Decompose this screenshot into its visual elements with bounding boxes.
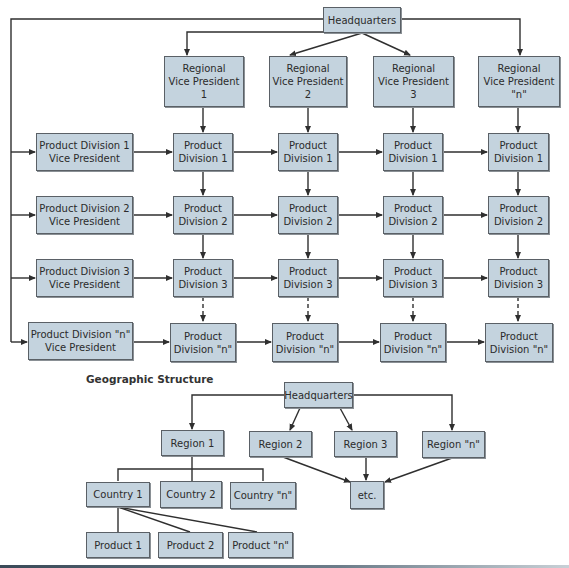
grid-r2-c2: Product Division 2 bbox=[278, 196, 338, 234]
grid-rn-c4: Product Division "n" bbox=[485, 323, 553, 362]
division-3-vp-box: Product Division 3 Vice President bbox=[36, 259, 133, 297]
grid-r1-c1: Product Division 1 bbox=[173, 133, 233, 171]
geographic-structure-title: Geographic Structure bbox=[86, 373, 213, 385]
grid-r3-c4: Product Division 3 bbox=[488, 259, 549, 297]
regional-vp-3-box: Regional Vice President 3 bbox=[373, 56, 454, 107]
grid-r2-c1: Product Division 2 bbox=[173, 196, 233, 234]
product-2-box: Product 2 bbox=[158, 532, 223, 558]
grid-r2-c3: Product Division 2 bbox=[383, 196, 443, 234]
grid-r1-c3: Product Division 1 bbox=[383, 133, 443, 171]
grid-rn-c1: Product Division "n" bbox=[170, 323, 236, 362]
grid-r1-c4: Product Division 1 bbox=[488, 133, 549, 171]
grid-r2-c4: Product Division 2 bbox=[488, 196, 549, 234]
grid-rn-c3: Product Division "n" bbox=[380, 323, 446, 362]
headquarters-box: Headquarters bbox=[323, 7, 401, 33]
country-2-box: Country 2 bbox=[160, 481, 222, 508]
division-2-vp-box: Product Division 2 Vice President bbox=[36, 196, 133, 234]
regional-vp-1-box: Regional Vice President 1 bbox=[164, 56, 244, 107]
country-1-box: Country 1 bbox=[86, 482, 150, 507]
regional-vp-2-box: Regional Vice President 2 bbox=[269, 56, 347, 107]
division-n-vp-box: Product Division "n" Vice President bbox=[28, 322, 133, 360]
region-n-box: Region "n" bbox=[422, 431, 485, 458]
region-3-box: Region 3 bbox=[334, 431, 397, 457]
grid-r1-c2: Product Division 1 bbox=[278, 133, 338, 171]
grid-r3-c1: Product Division 3 bbox=[173, 259, 233, 297]
region-2-box: Region 2 bbox=[249, 431, 312, 457]
product-1-box: Product 1 bbox=[86, 532, 150, 558]
grid-r3-c2: Product Division 3 bbox=[278, 259, 338, 297]
etc-box: etc. bbox=[350, 481, 384, 509]
product-n-box: Product "n" bbox=[228, 532, 293, 558]
region-1-box: Region 1 bbox=[161, 430, 224, 456]
grid-r3-c3: Product Division 3 bbox=[383, 259, 443, 297]
regional-vp-n-box: Regional Vice President "n" bbox=[478, 56, 560, 107]
org-structure-diagram: Headquarters Regional Vice President 1 R… bbox=[0, 0, 569, 568]
country-n-box: Country "n" bbox=[230, 482, 296, 509]
grid-rn-c2: Product Division "n" bbox=[272, 323, 338, 362]
geo-headquarters-box: Headquarters bbox=[284, 382, 353, 408]
division-1-vp-box: Product Division 1 Vice President bbox=[36, 133, 133, 171]
